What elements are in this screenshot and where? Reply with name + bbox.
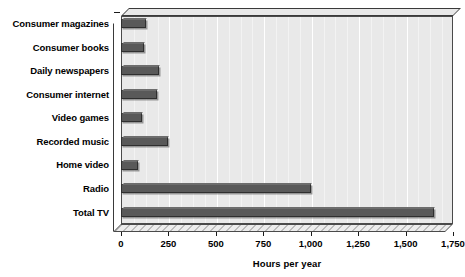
value-tick xyxy=(406,232,407,236)
bar-top-sliver xyxy=(122,183,312,185)
bar-top-sliver xyxy=(122,160,139,162)
category-tick xyxy=(114,12,120,13)
bar-top-sliver xyxy=(122,207,435,209)
bar xyxy=(121,19,146,28)
bar-top-sliver xyxy=(122,65,160,67)
value-tick xyxy=(263,232,264,236)
bar xyxy=(121,43,144,52)
category-label: Video games xyxy=(0,106,114,130)
bar-row xyxy=(121,153,453,177)
plot-left-face xyxy=(113,16,121,232)
category-label: Daily newspapers xyxy=(0,59,114,83)
value-tick xyxy=(168,232,169,236)
bar-row xyxy=(121,36,453,60)
x-axis-title: Hours per year xyxy=(121,258,453,269)
bar-row xyxy=(121,106,453,130)
bar-top-sliver xyxy=(122,112,143,114)
value-tick-label: 750 xyxy=(255,238,271,249)
category-label: Total TV xyxy=(0,201,114,225)
bar xyxy=(121,184,311,193)
value-tick xyxy=(216,232,217,236)
value-tick-label: 1,000 xyxy=(299,238,323,249)
bar-top-sliver xyxy=(122,136,169,138)
value-tick xyxy=(358,232,359,236)
bar-row xyxy=(121,83,453,107)
bar xyxy=(121,66,159,75)
value-tick xyxy=(311,232,312,236)
bar xyxy=(121,161,138,170)
value-tick-label: 250 xyxy=(160,238,176,249)
category-label: Recorded music xyxy=(0,130,114,154)
bar xyxy=(121,137,168,146)
bar-row xyxy=(121,177,453,201)
value-tick xyxy=(121,232,122,236)
category-label: Consumer internet xyxy=(0,83,114,107)
value-tick-label: 1,750 xyxy=(441,238,465,249)
value-tick xyxy=(453,232,454,236)
bar xyxy=(121,90,157,99)
bars-layer xyxy=(121,12,453,224)
bar xyxy=(121,208,434,217)
bar-top-sliver xyxy=(122,18,147,20)
category-label: Radio xyxy=(0,177,114,201)
bar-row xyxy=(121,59,453,83)
value-tick-label: 1,250 xyxy=(346,238,370,249)
plot-base xyxy=(113,224,453,232)
value-axis: 02505007501,0001,2501,5001,750 xyxy=(121,232,453,254)
bar-row xyxy=(121,12,453,36)
value-tick-label: 500 xyxy=(208,238,224,249)
value-tick-label: 0 xyxy=(118,238,123,249)
category-label: Home video xyxy=(0,153,114,177)
bar xyxy=(121,113,142,122)
category-label: Consumer magazines xyxy=(0,12,114,36)
bar-top-sliver xyxy=(122,89,158,91)
bar-row xyxy=(121,130,453,154)
bar-row xyxy=(121,200,453,224)
value-tick-label: 1,500 xyxy=(394,238,418,249)
bar-top-sliver xyxy=(122,42,145,44)
base-hatch xyxy=(437,224,448,232)
category-axis: Consumer magazinesConsumer booksDaily ne… xyxy=(0,12,114,224)
category-label: Consumer books xyxy=(0,36,114,60)
